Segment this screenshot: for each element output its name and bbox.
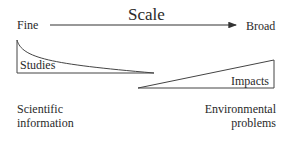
axis-right-label: Broad <box>246 20 275 32</box>
scientific-information-label: Scientific information <box>17 102 74 130</box>
studies-label: Studies <box>20 59 55 71</box>
impacts-label: Impacts <box>231 75 269 87</box>
diagram-title: Scale <box>128 6 165 23</box>
environmental-problems-line1: Environmental <box>205 102 276 116</box>
environmental-problems-line2: problems <box>205 116 276 130</box>
scientific-information-line1: Scientific <box>17 102 74 116</box>
environmental-problems-label: Environmental problems <box>205 102 276 130</box>
axis-left-label: Fine <box>17 19 38 31</box>
scientific-information-line2: information <box>17 116 74 130</box>
